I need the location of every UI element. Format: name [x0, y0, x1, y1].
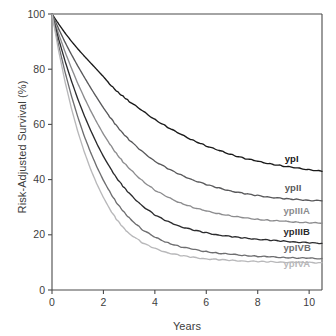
survival-chart: 0204060801000246810 ypIypIIypIIIAypIIIBy…: [0, 0, 336, 336]
x-tick-label: 8: [255, 296, 261, 308]
y-tick-label: 20: [33, 228, 45, 240]
y-tick-label: 0: [39, 284, 45, 296]
x-axis-title: Years: [52, 316, 322, 334]
survival-curve-ypivb: [52, 14, 322, 259]
series-label-ypivb: ypIVB: [283, 242, 310, 253]
x-tick-label: 2: [101, 296, 107, 308]
y-tick-label: 40: [33, 173, 45, 185]
series-label-ypiiib: ypIIIB: [283, 226, 310, 237]
series-label-ypiiia: ypIIIA: [283, 205, 310, 216]
x-tick-label: 6: [203, 296, 209, 308]
axis-layer: [52, 14, 322, 290]
y-tick-label: 80: [33, 63, 45, 75]
x-tick-label: 4: [152, 296, 158, 308]
y-axis-title: Risk-Adjusted Survival (%): [12, 37, 26, 257]
survival-curve-ypiiia: [52, 14, 322, 223]
series-label-ypiva: ypIVA: [283, 258, 310, 269]
y-axis-title-text: Risk-Adjusted Survival (%): [16, 81, 28, 214]
survival-curve-ypiva: [52, 14, 322, 263]
series-label-ypi: ypI: [285, 153, 299, 164]
y-tick-label: 100: [27, 8, 45, 20]
y-tick-label: 60: [33, 118, 45, 130]
x-tick-label: 0: [49, 296, 55, 308]
curve-layer: [52, 14, 322, 263]
survival-curve-ypi: [52, 14, 322, 171]
plot-area: 0204060801000246810 ypIypIIypIIIAypIIIBy…: [0, 0, 336, 336]
series-label-ypii: ypII: [285, 182, 302, 193]
x-axis-title-text: Years: [173, 320, 201, 332]
x-tick-label: 10: [303, 296, 315, 308]
survival-curve-ypiiib: [52, 14, 322, 244]
